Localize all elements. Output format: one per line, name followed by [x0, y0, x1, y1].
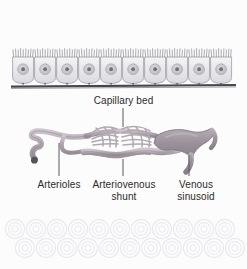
arteriole-tip	[31, 157, 38, 164]
figure-canvas	[0, 0, 247, 269]
label-capillary-bed: Capillary bed	[0, 95, 247, 107]
capillary-bed-figure: Capillary bed Arterioles Arteriovenous s…	[0, 0, 247, 269]
label-venous-sinusoid: Venous sinusoid	[160, 179, 232, 202]
label-arteriovenous-shunt: Arteriovenous shunt	[79, 179, 169, 202]
